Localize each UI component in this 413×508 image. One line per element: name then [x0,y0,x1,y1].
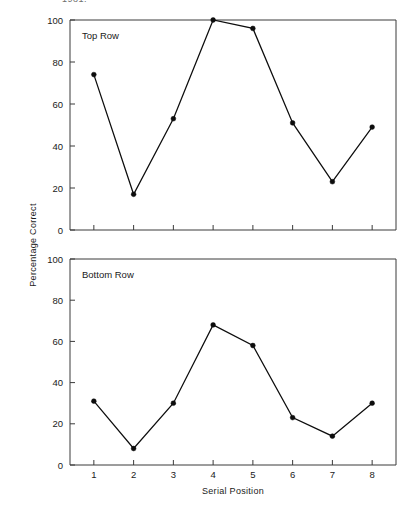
data-line [94,325,372,449]
y-tick-label: 40 [52,377,63,388]
panel-title: Bottom Row [82,269,134,280]
clipped-header-text: 1981; [62,0,87,2]
data-point [290,415,295,420]
data-line [94,20,372,194]
x-tick-label: 4 [210,469,215,480]
y-tick-label: 20 [52,418,63,429]
data-point [370,125,375,130]
x-tick-label: 6 [290,469,295,480]
y-tick-label: 100 [47,254,63,265]
data-point [250,343,255,348]
y-axis-title: Percentage Correct [28,203,38,287]
data-point [131,192,136,197]
panel-title: Top Row [82,30,119,41]
data-point [330,434,335,439]
data-point [131,446,136,451]
y-tick-label: 40 [52,141,63,152]
data-point [370,401,375,406]
x-tick-label: 8 [369,469,374,480]
y-tick-label: 20 [52,183,63,194]
x-tick-label: 7 [330,469,335,480]
serial-position-chart: 020406080100Top Row 02040608010012345678… [0,0,413,508]
bottom-row-panel: 02040608010012345678Bottom Row [47,254,396,481]
y-tick-label: 0 [58,225,63,236]
x-tick-label: 5 [250,469,255,480]
top-row-panel: 020406080100Top Row [47,15,396,236]
y-tick-label: 80 [52,57,63,68]
data-point [290,121,295,126]
data-point [171,116,176,121]
plot-frame [70,20,396,230]
data-point [171,401,176,406]
data-point [211,323,216,328]
data-point [91,399,96,404]
data-point [330,179,335,184]
plot-frame [70,259,396,465]
x-tick-label: 2 [131,469,136,480]
y-tick-label: 100 [47,15,63,26]
data-point [91,72,96,77]
y-tick-label: 60 [52,99,63,110]
y-tick-label: 0 [58,460,63,471]
x-tick-label: 3 [171,469,176,480]
figure-container: 1981; 020406080100Top Row 02040608010012… [0,0,413,508]
data-point [250,26,255,31]
shared-axis-labels: Serial PositionPercentage Correct [28,203,264,496]
x-tick-label: 1 [91,469,96,480]
y-tick-label: 80 [52,295,63,306]
data-point [211,18,216,23]
y-tick-label: 60 [52,336,63,347]
x-axis-title: Serial Position [202,486,264,496]
